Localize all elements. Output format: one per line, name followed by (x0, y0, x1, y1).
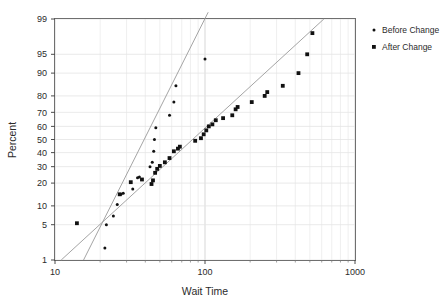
y-axis-title: Percent (6, 122, 18, 158)
data-point (263, 94, 267, 98)
legend-marker-square (372, 45, 376, 49)
data-point (122, 192, 125, 195)
data-point (112, 214, 115, 217)
data-point (230, 113, 234, 117)
y-tick-label: 70 (37, 108, 47, 118)
data-point (172, 149, 176, 153)
data-point (297, 71, 301, 75)
y-tick-label: 1 (42, 255, 47, 265)
y-tick-label: 20 (37, 178, 47, 188)
data-point (131, 187, 134, 190)
x-tick-label: 10 (50, 267, 60, 277)
y-tick-label: 60 (37, 122, 47, 132)
legend-label[interactable]: After Change (382, 42, 432, 52)
y-tick-label: 90 (37, 68, 47, 78)
data-point (116, 203, 119, 206)
y-tick-label: 50 (37, 135, 47, 145)
data-point (281, 84, 285, 88)
y-tick-label: 80 (37, 91, 47, 101)
data-point (207, 124, 211, 128)
data-point (151, 178, 155, 182)
legend-marker-small-dot (373, 29, 376, 32)
data-point (150, 182, 154, 186)
data-point (153, 138, 156, 141)
x-tick-label: 1000 (345, 267, 365, 277)
y-tick-label: 40 (37, 148, 47, 158)
data-point (305, 52, 309, 56)
y-tick-label: 99 (37, 14, 47, 24)
data-point (250, 100, 254, 104)
data-point (214, 118, 218, 122)
data-point (103, 247, 106, 250)
data-point (154, 126, 157, 129)
data-point (151, 161, 154, 164)
plot-canvas: 101001000 151020304050607080909599 Wait … (0, 0, 448, 307)
data-point (265, 90, 269, 94)
data-point (178, 145, 182, 149)
y-tick-label: 5 (42, 220, 47, 230)
legend-label[interactable]: Before Change (382, 25, 439, 35)
data-point (129, 180, 133, 184)
data-point (140, 178, 144, 182)
data-point (204, 57, 207, 60)
data-point (168, 156, 172, 160)
probability-plot-figure: 101001000 151020304050607080909599 Wait … (0, 0, 448, 307)
data-point (199, 136, 203, 140)
y-tick-label: 30 (37, 162, 47, 172)
data-point (163, 160, 167, 164)
y-tick-label: 10 (37, 201, 47, 211)
data-point (172, 101, 175, 104)
data-point (153, 171, 157, 175)
y-tick-label: 95 (37, 49, 47, 59)
data-point (75, 221, 79, 225)
data-point (149, 165, 152, 168)
data-point (311, 31, 315, 35)
data-point (221, 116, 225, 120)
x-axis-title: Wait Time (182, 285, 228, 297)
data-point (118, 192, 122, 196)
data-point (210, 122, 214, 126)
data-point (202, 132, 206, 136)
data-point (158, 164, 162, 168)
data-point (236, 105, 240, 109)
data-point (174, 84, 177, 87)
data-point (193, 139, 197, 143)
data-point (204, 128, 208, 132)
data-point (152, 150, 155, 153)
x-tick-label: 100 (197, 267, 212, 277)
data-point (168, 114, 171, 117)
data-point (105, 223, 108, 226)
